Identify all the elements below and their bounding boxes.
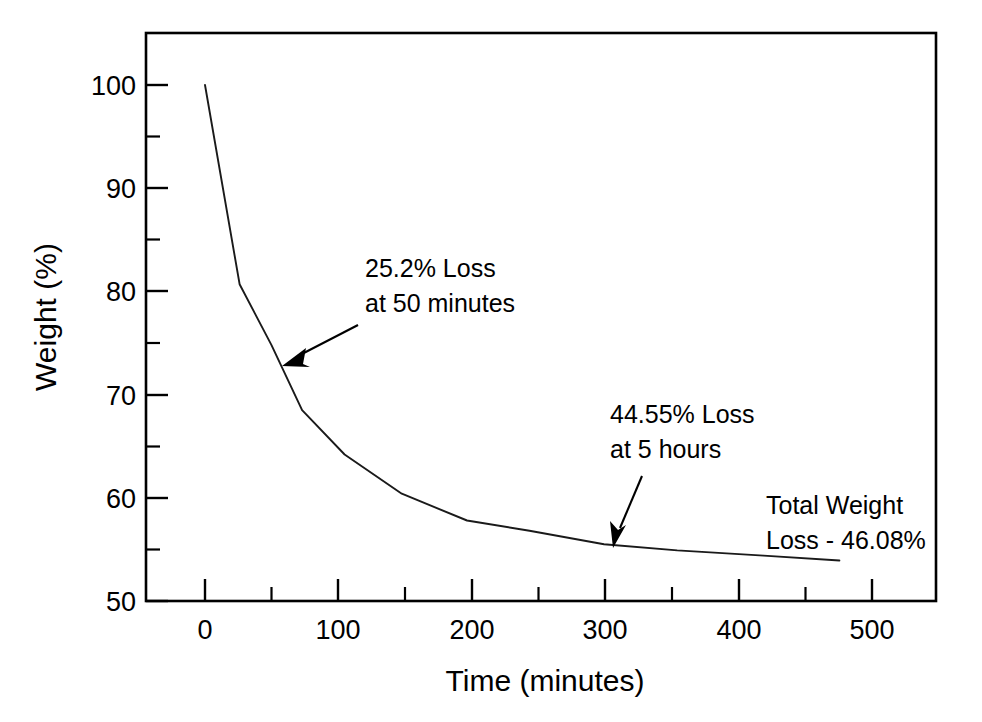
weight-loss-line-chart: 100 90 80 70 60 50 0 100 200 300 400 500… <box>0 0 982 722</box>
x-axis-title: Time (minutes) <box>446 664 645 697</box>
x-tick-label-200: 200 <box>449 615 494 645</box>
y-tick-label-50: 50 <box>106 587 136 617</box>
y-tick-label-60: 60 <box>106 484 136 514</box>
x-tick-label-400: 400 <box>716 615 761 645</box>
x-tick-label-100: 100 <box>315 615 360 645</box>
x-tick-label-0: 0 <box>197 615 212 645</box>
annotation-total-loss-line1: Total Weight <box>766 491 903 519</box>
x-tick-label-500: 500 <box>849 615 894 645</box>
annotation-5hours-line1: 44.55% Loss <box>610 400 755 428</box>
y-tick-label-80: 80 <box>106 277 136 307</box>
y-axis-tick-labels: 100 90 80 70 60 50 <box>91 71 136 617</box>
y-tick-label-90: 90 <box>106 174 136 204</box>
annotation-5hours-line2: at 5 hours <box>610 435 721 463</box>
y-axis-title: Weight (%) <box>29 243 62 391</box>
y-tick-label-70: 70 <box>106 381 136 411</box>
annotation-total-loss-line2: Loss - 46.08% <box>766 526 926 554</box>
annotation-50min-line1: 25.2% Loss <box>365 254 496 282</box>
annotation-50min-line2: at 50 minutes <box>365 289 515 317</box>
x-axis-tick-labels: 0 100 200 300 400 500 <box>197 615 894 645</box>
x-tick-label-300: 300 <box>582 615 627 645</box>
chart-figure: 100 90 80 70 60 50 0 100 200 300 400 500… <box>0 0 982 722</box>
y-tick-label-100: 100 <box>91 71 136 101</box>
